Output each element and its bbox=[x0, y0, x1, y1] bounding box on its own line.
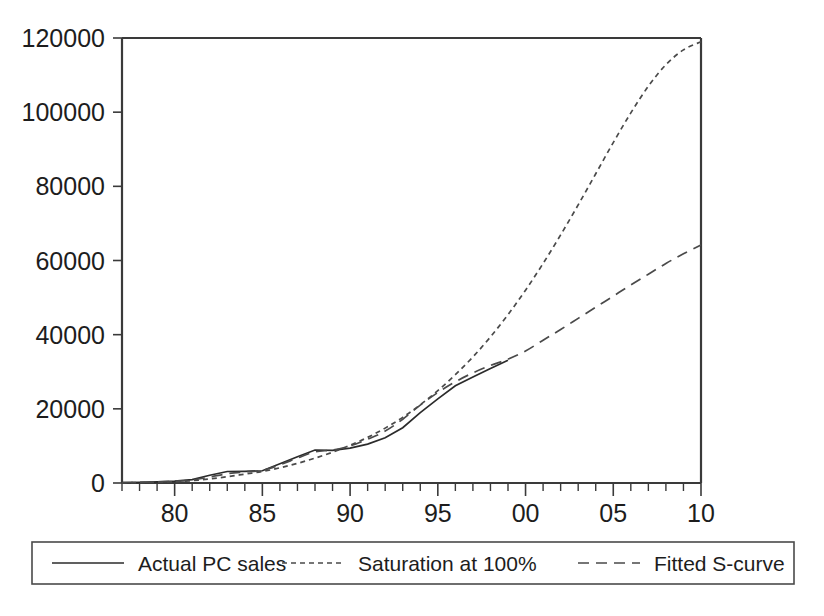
legend-label-1: Actual PC sales bbox=[138, 552, 286, 575]
y-tick-label: 100000 bbox=[22, 98, 105, 126]
y-tick-label: 40000 bbox=[35, 321, 105, 349]
x-tick-label: 95 bbox=[424, 499, 452, 527]
plot-frame bbox=[122, 38, 701, 483]
x-axis-minor-ticks bbox=[122, 483, 683, 491]
x-axis-tick-labels: 80859095000510 bbox=[161, 499, 715, 527]
legend-content: Actual PC salesSaturation at 100%Fitted … bbox=[52, 552, 785, 575]
x-tick-label: 00 bbox=[512, 499, 540, 527]
x-axis-ticks bbox=[175, 483, 701, 496]
y-tick-label: 120000 bbox=[22, 24, 105, 52]
y-axis-tick-labels: 020000400006000080000100000120000 bbox=[22, 24, 105, 497]
series-fitted-s-curve bbox=[122, 245, 701, 483]
x-tick-label: 05 bbox=[599, 499, 627, 527]
legend-label-2: Saturation at 100% bbox=[358, 552, 537, 575]
x-tick-label: 85 bbox=[248, 499, 276, 527]
y-tick-label: 80000 bbox=[35, 172, 105, 200]
y-tick-label: 20000 bbox=[35, 395, 105, 423]
x-tick-label: 10 bbox=[687, 499, 715, 527]
chart-svg: 020000400006000080000100000120000 808590… bbox=[0, 0, 824, 616]
y-axis-ticks bbox=[113, 38, 122, 483]
data-series-layer bbox=[122, 42, 701, 483]
y-tick-label: 0 bbox=[91, 469, 105, 497]
y-tick-label: 60000 bbox=[35, 247, 105, 275]
chart-figure: 020000400006000080000100000120000 808590… bbox=[0, 0, 824, 616]
x-tick-label: 90 bbox=[336, 499, 364, 527]
series-saturation-at-100 bbox=[122, 42, 701, 483]
legend-label-3: Fitted S-curve bbox=[654, 552, 785, 575]
x-tick-label: 80 bbox=[161, 499, 189, 527]
chart-legend: Actual PC salesSaturation at 100%Fitted … bbox=[32, 542, 794, 584]
